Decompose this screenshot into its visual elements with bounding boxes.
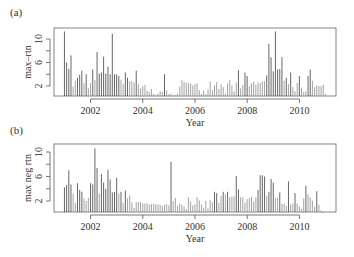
x-tick-label: 2010 xyxy=(289,221,309,232)
panel-b-ylabel: max neg rtn xyxy=(22,154,33,202)
x-tick-label: 2004 xyxy=(133,221,153,232)
y-tick-label: 6 xyxy=(33,174,44,179)
x-tick-label: 2008 xyxy=(237,221,257,232)
panel-a-bars xyxy=(64,31,325,96)
x-tick-label: 2006 xyxy=(185,221,205,232)
x-tick-label: 2010 xyxy=(289,105,309,116)
panel-a-y-axis: 2610 xyxy=(33,34,50,89)
y-tick-label: 2 xyxy=(33,199,44,204)
panel-a-x-axis: 20022004200620082010 xyxy=(81,99,310,116)
y-tick-label: 6 xyxy=(33,60,44,65)
panel-a-label: (a) xyxy=(10,6,23,19)
panel-b-x-axis: 20022004200620082010 xyxy=(81,215,310,232)
panel-a-ylabel: max–rtn xyxy=(22,45,33,78)
x-tick-label: 2002 xyxy=(81,105,101,116)
y-tick-label: 10 xyxy=(33,147,44,157)
figure: (a) max–rtn 2610 20022004200620082010 Ye… xyxy=(0,0,354,257)
y-tick-label: 2 xyxy=(33,84,44,89)
x-tick-label: 2004 xyxy=(133,105,153,116)
panel-b-bars xyxy=(64,148,323,213)
panel-b-label: (b) xyxy=(10,124,23,137)
panel-a-xlabel: Year xyxy=(186,117,205,128)
x-tick-label: 2006 xyxy=(185,105,205,116)
panel-b-xlabel: Year xyxy=(186,233,205,244)
panel-b-plot-frame xyxy=(54,144,336,212)
y-tick-label: 10 xyxy=(33,34,44,44)
x-tick-label: 2008 xyxy=(237,105,257,116)
panel-b-y-axis: 2610 xyxy=(33,147,50,204)
x-tick-label: 2002 xyxy=(81,221,101,232)
